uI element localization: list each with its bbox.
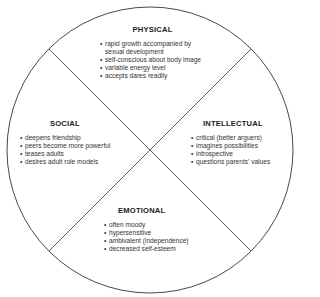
list-item: deepens friendship: [20, 134, 130, 142]
quadrant-title: SOCIAL: [20, 119, 130, 128]
list-item: decreased self-esteem: [104, 245, 214, 253]
trait-list: often moody hypersensitive ambivalent (i…: [104, 221, 214, 253]
list-item: accepts dares readily: [100, 72, 210, 80]
trait-list: rapid growth accompanied by sexual devel…: [100, 40, 210, 80]
quadrant-title: PHYSICAL: [95, 25, 210, 34]
trait-list: critical (better arguers) imagines possi…: [191, 134, 296, 166]
quadrant-emotional: EMOTIONAL often moody hypersensitive amb…: [104, 206, 214, 253]
quadrant-physical: PHYSICAL rapid growth accompanied by sex…: [100, 25, 210, 80]
trait-list: deepens friendship peers become more pow…: [20, 134, 130, 166]
list-item: hypersensitive: [104, 229, 214, 237]
list-item: rapid growth accompanied by sexual devel…: [100, 40, 200, 56]
list-item: desires adult role models: [20, 158, 130, 166]
list-item: introspective: [191, 150, 296, 158]
list-item: questions parents' values: [191, 158, 296, 166]
list-item: self-conscious about body image: [100, 56, 210, 64]
list-item: ambivalent (independence): [104, 237, 214, 245]
quadrant-title: INTELLECTUAL: [191, 119, 296, 128]
list-item: teases adults: [20, 150, 130, 158]
quadrant-intellectual: INTELLECTUAL critical (better arguers) i…: [191, 119, 296, 166]
list-item: often moody: [104, 221, 214, 229]
quadrant-social: SOCIAL deepens friendship peers become m…: [20, 119, 130, 166]
list-item: peers become more powerful: [20, 142, 130, 150]
quadrant-title: EMOTIONAL: [104, 206, 214, 215]
list-item: imagines possibilities: [191, 142, 296, 150]
list-item: critical (better arguers): [191, 134, 296, 142]
list-item: variable energy level: [100, 64, 210, 72]
